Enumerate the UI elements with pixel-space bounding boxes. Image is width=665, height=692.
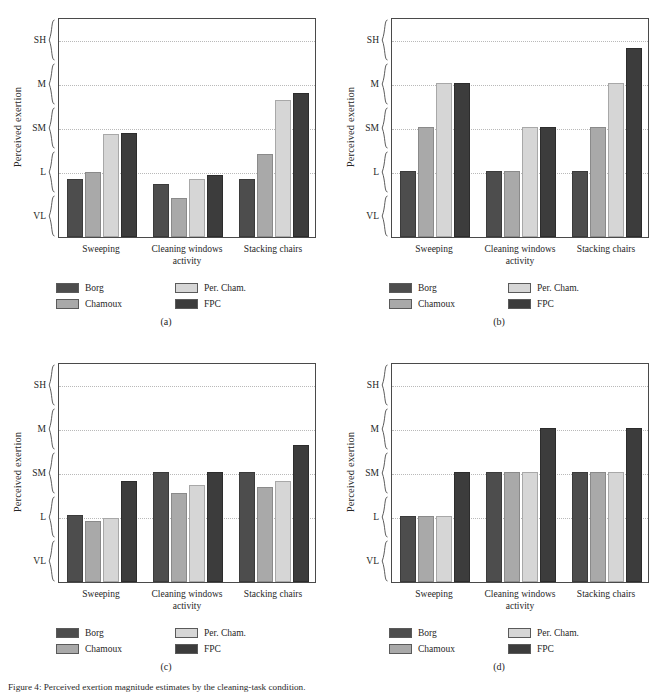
y-tick-label: SM bbox=[20, 468, 46, 478]
legend-label: Borg bbox=[85, 628, 104, 638]
legend-item-chamoux: Chamoux bbox=[389, 644, 502, 654]
bar-group bbox=[392, 364, 478, 582]
bar-group bbox=[59, 364, 145, 582]
x-tick-label: Cleaning windowsactivity bbox=[477, 588, 563, 612]
bar bbox=[486, 171, 502, 237]
legend-swatch-borg bbox=[389, 628, 412, 638]
x-tick-label: Sweeping bbox=[391, 243, 477, 255]
legend-label: Per. Cham. bbox=[537, 628, 579, 638]
y-tick-label: L bbox=[353, 512, 379, 522]
bar bbox=[522, 472, 538, 582]
chart-panel-b: Perceived exertionVLLSMMSHSweepingCleani… bbox=[333, 0, 665, 345]
y-tick-label: SM bbox=[353, 468, 379, 478]
legend-item-percham: Per. Cham. bbox=[175, 283, 288, 293]
bar bbox=[486, 472, 502, 582]
figure-caption: Figure 4: Perceived exertion magnitude e… bbox=[8, 682, 658, 692]
bar bbox=[121, 481, 137, 582]
bar bbox=[626, 428, 642, 582]
chart-legend: BorgPer. Cham.ChamouxFPC bbox=[389, 626, 621, 655]
legend-item-fpc: FPC bbox=[175, 299, 288, 309]
bar bbox=[189, 485, 205, 582]
x-tick-label-line2: activity bbox=[477, 255, 563, 267]
y-tick-label: SH bbox=[353, 35, 379, 45]
panel-caption-b: (b) bbox=[333, 316, 665, 327]
panel-caption-d: (d) bbox=[333, 661, 665, 672]
bar bbox=[400, 516, 416, 582]
y-tick-brace-icon bbox=[48, 540, 56, 582]
y-tick-brace-icon bbox=[48, 496, 56, 538]
legend-swatch-borg bbox=[56, 628, 79, 638]
y-tick-label: L bbox=[353, 167, 379, 177]
y-tick-label: SM bbox=[20, 123, 46, 133]
y-tick-brace-icon bbox=[381, 452, 389, 494]
bar-group bbox=[392, 19, 478, 237]
bar bbox=[572, 472, 588, 582]
legend-label: Borg bbox=[418, 283, 437, 293]
bar bbox=[293, 93, 309, 237]
legend-label: FPC bbox=[204, 299, 221, 309]
bar-group bbox=[145, 19, 231, 237]
legend-swatch-fpc bbox=[175, 299, 198, 309]
legend-swatch-borg bbox=[56, 283, 79, 293]
bar bbox=[454, 472, 470, 582]
y-tick-brace-icon bbox=[48, 195, 56, 237]
legend-label: Chamoux bbox=[85, 644, 122, 654]
y-tick-label: SH bbox=[20, 380, 46, 390]
bar-group bbox=[564, 19, 649, 237]
bar-layer bbox=[392, 364, 648, 582]
legend-swatch-fpc bbox=[175, 644, 198, 654]
bar bbox=[189, 179, 205, 237]
legend-item-fpc: FPC bbox=[508, 299, 621, 309]
bar bbox=[67, 515, 83, 582]
bar bbox=[207, 472, 223, 582]
x-tick-label: Stacking chairs bbox=[563, 243, 649, 255]
legend-item-borg: Borg bbox=[389, 283, 502, 293]
legend-label: Per. Cham. bbox=[204, 283, 246, 293]
panel-caption-c: (c) bbox=[0, 661, 332, 672]
legend-item-percham: Per. Cham. bbox=[508, 628, 621, 638]
y-tick-label: VL bbox=[20, 556, 46, 566]
legend-swatch-chamoux bbox=[56, 299, 79, 309]
x-tick-label: Cleaning windowsactivity bbox=[477, 243, 563, 267]
chart-panel-c: Perceived exertionVLLSMMSHSweepingCleani… bbox=[0, 345, 332, 690]
legend-swatch-borg bbox=[389, 283, 412, 293]
legend-label: Per. Cham. bbox=[204, 628, 246, 638]
y-tick-brace-icon bbox=[381, 19, 389, 61]
y-tick-brace-icon bbox=[381, 151, 389, 193]
x-tick-label-line2: activity bbox=[477, 600, 563, 612]
legend-swatch-fpc bbox=[508, 644, 531, 654]
bar bbox=[590, 127, 606, 237]
chart-legend: BorgPer. Cham.ChamouxFPC bbox=[56, 281, 288, 310]
legend-item-chamoux: Chamoux bbox=[56, 299, 169, 309]
y-tick-label: L bbox=[20, 167, 46, 177]
bar bbox=[572, 171, 588, 237]
bar-group bbox=[478, 364, 564, 582]
y-tick-brace-icon bbox=[381, 364, 389, 406]
x-tick-label: Sweeping bbox=[391, 588, 477, 600]
bar bbox=[239, 472, 255, 582]
bar-group bbox=[231, 19, 316, 237]
bar bbox=[103, 518, 119, 582]
bar-group bbox=[478, 19, 564, 237]
legend-label: FPC bbox=[537, 299, 554, 309]
plot-area bbox=[391, 363, 649, 583]
legend-label: Borg bbox=[85, 283, 104, 293]
bar bbox=[239, 179, 255, 237]
legend-label: Per. Cham. bbox=[537, 283, 579, 293]
plot-area bbox=[58, 363, 316, 583]
bar-group bbox=[145, 364, 231, 582]
figure-four-panel-bar-charts: Perceived exertionVLLSMMSHSweepingCleani… bbox=[0, 0, 665, 692]
bar bbox=[293, 445, 309, 582]
x-tick-label: Stacking chairs bbox=[230, 588, 316, 600]
y-tick-label: M bbox=[20, 424, 46, 434]
x-tick-label-line2: activity bbox=[144, 600, 230, 612]
legend-swatch-percham bbox=[508, 283, 531, 293]
legend-swatch-percham bbox=[508, 628, 531, 638]
bar bbox=[257, 154, 273, 237]
y-tick-brace-icon bbox=[48, 107, 56, 149]
y-tick-label: VL bbox=[353, 556, 379, 566]
bar bbox=[153, 184, 169, 237]
bar bbox=[540, 428, 556, 582]
legend-swatch-chamoux bbox=[56, 644, 79, 654]
plot-area bbox=[391, 18, 649, 238]
